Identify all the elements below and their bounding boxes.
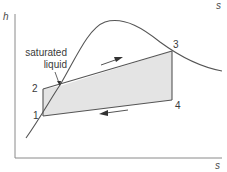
heat-rejection-arrow bbox=[106, 110, 128, 113]
point-label-1: 1 bbox=[33, 111, 39, 121]
point-label-3: 3 bbox=[173, 40, 179, 50]
point-label-2: 2 bbox=[32, 84, 38, 94]
saturated-liquid-annotation: saturated liquid bbox=[20, 47, 67, 71]
top-right-s-label: s bbox=[216, 1, 221, 11]
point-label-4: 4 bbox=[175, 101, 181, 111]
heat-rejection-arrow-head bbox=[99, 110, 108, 116]
heat-addition-arrow-head bbox=[114, 57, 123, 62]
y-axis-label: h bbox=[3, 12, 9, 22]
x-axis-label: s bbox=[215, 161, 220, 171]
annotation-line-2: liquid bbox=[20, 59, 67, 71]
annotation-line-1: saturated bbox=[20, 47, 67, 59]
